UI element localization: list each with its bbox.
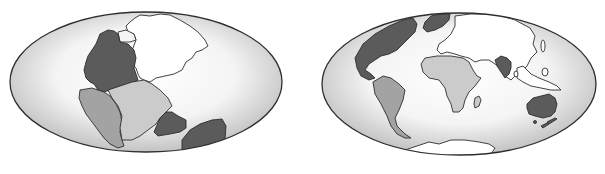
- present-day-map-svg: [305, 0, 605, 174]
- pangaea-map: [0, 0, 300, 174]
- region-sri-lanka: [514, 71, 518, 77]
- present-day-map: [305, 0, 605, 174]
- region-tasmania: [534, 121, 537, 124]
- region-japan-islands: [541, 40, 545, 52]
- region-borneo: [542, 68, 548, 76]
- pangaea-map-svg: [0, 0, 300, 174]
